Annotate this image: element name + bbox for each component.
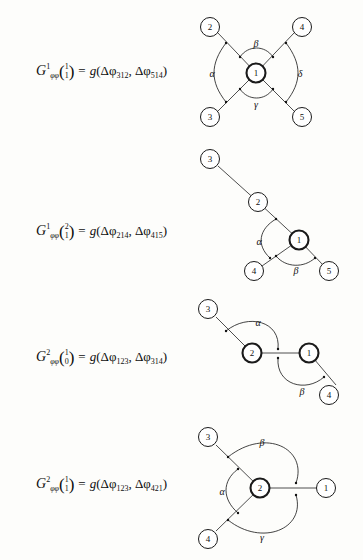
equation-3: G2φφ(10)=g(Δφ123, Δφ314) xyxy=(36,348,167,366)
angle-label-alpha: α xyxy=(219,486,225,497)
equation-1: G1φφ(11)=g(Δφ312, Δφ514) xyxy=(36,62,167,80)
arc-beta-tick-end xyxy=(272,56,274,58)
g-subscript: φφ xyxy=(50,484,59,493)
equals-sign: = xyxy=(78,63,85,78)
node-3-label: 3 xyxy=(208,154,213,164)
figure-row-2: G1φφ(21)=g(Δφ214, Δφ415) α β 3 2 4 xyxy=(0,140,363,285)
rhs-close-paren: ) xyxy=(163,63,167,78)
binom-close-paren: ) xyxy=(69,222,75,241)
arg1-prefix: Δφ xyxy=(101,349,117,364)
node-1-label: 1 xyxy=(254,68,259,78)
binom-close-paren: ) xyxy=(69,475,75,494)
arc-alpha xyxy=(226,469,238,513)
arc-gamma-tick-end xyxy=(295,494,297,496)
node-1-label: 1 xyxy=(324,483,329,493)
arc-alpha-tick-start xyxy=(225,42,227,44)
binom-close-paren: ) xyxy=(69,62,75,81)
arc-gamma xyxy=(240,89,273,98)
g-subscript: φφ xyxy=(50,357,59,366)
angle-label-beta: β xyxy=(299,386,305,397)
node-2-label: 2 xyxy=(258,483,263,493)
g-superscript: 1 xyxy=(46,62,50,71)
g-symbol: G xyxy=(36,63,46,78)
diagram-two-center-chain: α β 3 4 2 1 xyxy=(196,297,341,407)
diagram-chain-branch: α β 3 2 4 5 1 xyxy=(196,148,336,278)
arc-beta-tick-start xyxy=(227,456,229,458)
angle-label-alpha: α xyxy=(209,68,215,79)
rhs-close-paren: ) xyxy=(163,223,167,238)
equals-sign: = xyxy=(78,223,85,238)
arc-alpha-tick-start xyxy=(237,468,239,470)
arc-beta xyxy=(240,48,273,57)
g-subscript: φφ xyxy=(50,231,59,240)
angle-label-gamma: γ xyxy=(254,99,259,110)
g-superscript: 1 xyxy=(46,222,50,231)
arc-beta-tick-start xyxy=(239,56,241,58)
arg1-prefix: Δφ xyxy=(101,63,117,78)
angle-label-alpha: α xyxy=(255,317,261,328)
node-5-label: 5 xyxy=(327,266,332,276)
arg1-index: 312 xyxy=(116,71,128,80)
arg1-prefix: Δφ xyxy=(101,223,117,238)
arc-beta-tick-end xyxy=(314,257,316,259)
arg1-prefix: Δφ xyxy=(101,476,117,491)
arc-delta-tick-start xyxy=(285,42,287,44)
g-symbol: G xyxy=(36,223,46,238)
arc-delta xyxy=(286,43,298,102)
node-5-label: 5 xyxy=(300,112,305,122)
figure-row-1: G1φφ(11)=g(Δφ312, Δφ514) α β δ xyxy=(0,0,363,140)
arc-beta-tick-end xyxy=(323,376,325,378)
binom-4: (11) xyxy=(59,476,74,493)
arc-alpha-tick-start xyxy=(225,330,227,332)
node-4-label: 4 xyxy=(300,22,305,32)
angle-label-beta: β xyxy=(293,265,299,276)
arc-alpha-tick-end xyxy=(225,101,227,103)
arc-beta xyxy=(228,443,298,483)
node-1-label: 1 xyxy=(307,348,312,358)
angle-label-alpha: α xyxy=(256,236,262,247)
arc-delta-tick-end xyxy=(285,101,287,103)
arg1-index: 123 xyxy=(116,484,128,493)
arg2-prefix: Δφ xyxy=(135,63,151,78)
rhs-close-paren: ) xyxy=(163,349,167,364)
diagram-star-3: β α γ 3 1 4 2 xyxy=(196,425,341,550)
arc-beta-tick-start xyxy=(277,357,279,359)
arc-gamma-tick-end xyxy=(272,88,274,90)
binom-close-paren: ) xyxy=(69,348,75,367)
arc-alpha-tick-end xyxy=(269,257,271,259)
arg2-prefix: Δφ xyxy=(135,476,151,491)
diagram-star-5: α β δ γ 2 4 3 5 1 xyxy=(196,16,316,128)
angle-label-beta: β xyxy=(253,38,259,49)
equation-2-lhs: G1φφ xyxy=(36,222,59,240)
equation-3-lhs: G2φφ xyxy=(36,348,59,366)
equals-sign: = xyxy=(78,349,85,364)
equation-2: G1φφ(21)=g(Δφ214, Δφ415) xyxy=(36,222,167,240)
g-symbol: G xyxy=(36,349,46,364)
rhs-close-paren: ) xyxy=(163,476,167,491)
arg2-prefix: Δφ xyxy=(135,223,151,238)
equation-4: G2φφ(11)=g(Δφ123, Δφ421) xyxy=(36,475,167,493)
binom-2: (21) xyxy=(59,223,74,240)
angle-label-beta: β xyxy=(259,437,265,448)
angle-label-delta: δ xyxy=(298,68,303,79)
equals-sign: = xyxy=(78,476,85,491)
figure-row-4: G2φφ(11)=g(Δφ123, Δφ421) β α γ 3 xyxy=(0,415,363,560)
arg1-index: 123 xyxy=(116,357,128,366)
equation-1-lhs: G1φφ xyxy=(36,62,59,80)
arg2-index: 421 xyxy=(151,484,163,493)
arc-gamma-tick-start xyxy=(227,519,229,521)
equation-4-lhs: G2φφ xyxy=(36,475,59,493)
arg2-index: 314 xyxy=(151,357,163,366)
arc-alpha xyxy=(214,43,226,102)
arc-alpha-tick-end xyxy=(237,512,239,514)
arc-alpha xyxy=(261,219,276,258)
figure-row-3: G2φφ(10)=g(Δφ123, Δφ314) α β 3 4 2 xyxy=(0,285,363,415)
node-4-label: 4 xyxy=(327,390,332,400)
arc-gamma-tick-start xyxy=(239,88,241,90)
arc-beta-tick-end xyxy=(295,482,297,484)
g-subscript: φφ xyxy=(50,71,59,80)
node-2-label: 2 xyxy=(250,348,255,358)
node-1-label: 1 xyxy=(297,235,302,245)
node-2-label: 2 xyxy=(208,22,213,32)
node-3-label: 3 xyxy=(206,304,211,314)
